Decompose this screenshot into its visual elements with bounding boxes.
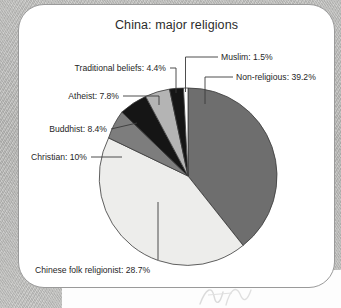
pie-label-chinese-folk-religionist: Chinese folk religionist: 28.7% <box>35 265 150 275</box>
pie-label-traditional-beliefs: Traditional beliefs: 4.4% <box>75 63 167 73</box>
pie-label-atheist: Atheist: 7.8% <box>68 91 119 101</box>
pie-chart: Muslim: 1.5% Non-religious: 39.2% Tradit… <box>19 5 335 288</box>
pie-label-muslim: Muslim: 1.5% <box>221 52 273 62</box>
pie-label-christian: Christian: 10% <box>31 152 87 162</box>
screenshot-root: China: major religions <box>0 0 341 308</box>
leader-line-muslim <box>186 57 219 92</box>
pie-label-non-religious: Non-religious: 39.2% <box>236 72 316 82</box>
pie-label-buddhist: Buddhist: 8.4% <box>49 124 107 134</box>
chart-card: China: major religions <box>18 4 335 288</box>
